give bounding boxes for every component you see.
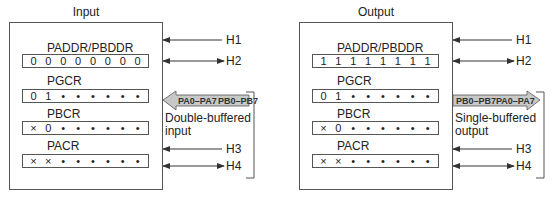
bit: • — [347, 155, 359, 167]
register-label: PGCR — [47, 74, 82, 88]
bit: 0 — [27, 55, 39, 67]
bit: 0 — [42, 55, 54, 67]
handshake-label-h2: H2 — [516, 54, 531, 68]
bit: • — [362, 122, 374, 134]
data-arrow-label-left: PA0–PA7 — [178, 96, 217, 106]
register-pbcr: ×0•••••• — [22, 121, 149, 135]
bit: 0 — [42, 122, 54, 134]
register-label: PBCR — [47, 107, 80, 121]
bit: • — [57, 90, 69, 102]
bit: • — [377, 90, 389, 102]
bit: 0 — [72, 55, 84, 67]
bit: 0 — [102, 55, 114, 67]
bit: × — [317, 122, 329, 134]
data-arrow-label-left: PB0–PB7 — [456, 96, 496, 106]
bit: 1 — [422, 55, 434, 67]
register-label: PADDR/PBDDR — [337, 41, 423, 55]
buffer-note-line2: input — [165, 125, 191, 138]
register-pacr: ××•••••• — [22, 154, 149, 168]
bit: × — [332, 155, 344, 167]
buffer-note-line2: output — [455, 125, 488, 138]
bit: 0 — [332, 122, 344, 134]
bit: • — [347, 122, 359, 134]
handshake-label-h2: H2 — [226, 54, 241, 68]
bit: • — [407, 155, 419, 167]
bit: 1 — [332, 90, 344, 102]
bit: • — [117, 122, 129, 134]
bit: • — [72, 122, 84, 134]
bit: 0 — [87, 55, 99, 67]
register-label: PACR — [47, 139, 79, 153]
handshake-label-h1: H1 — [516, 33, 531, 47]
bit: • — [57, 155, 69, 167]
bit: • — [132, 155, 144, 167]
handshake-label-h3: H3 — [516, 142, 531, 156]
bit: • — [102, 90, 114, 102]
handshake-label-h3: H3 — [226, 142, 241, 156]
handshake-label-h4: H4 — [226, 159, 241, 173]
bit: × — [27, 155, 39, 167]
bit: • — [362, 90, 374, 102]
bit: • — [72, 155, 84, 167]
bit: • — [132, 90, 144, 102]
bit: • — [377, 155, 389, 167]
bit: • — [377, 122, 389, 134]
bit: • — [407, 122, 419, 134]
bit: • — [347, 90, 359, 102]
bit: • — [362, 155, 374, 167]
bit: × — [317, 155, 329, 167]
bit: 0 — [117, 55, 129, 67]
register-label: PACR — [337, 139, 369, 153]
data-arrow-label-right: PA0–PA7 — [496, 96, 535, 106]
register-paddr-pbddr: 00000000 — [22, 54, 149, 68]
register-label: PADDR/PBDDR — [47, 41, 133, 55]
data-arrow-label-right: PB0–PB7 — [218, 96, 258, 106]
bit: 1 — [407, 55, 419, 67]
panel-title-output: Output — [336, 5, 416, 19]
panel-title-input: Input — [46, 5, 126, 19]
bit: × — [27, 122, 39, 134]
bit: • — [392, 90, 404, 102]
bit: • — [407, 90, 419, 102]
bit: • — [392, 155, 404, 167]
register-pgcr: 01•••••• — [312, 89, 439, 103]
bit: 1 — [42, 90, 54, 102]
bit: • — [57, 122, 69, 134]
bit: • — [422, 90, 434, 102]
bit: 1 — [332, 55, 344, 67]
bit: • — [87, 90, 99, 102]
bit: • — [102, 122, 114, 134]
bit: 1 — [317, 55, 329, 67]
handshake-label-h4: H4 — [516, 159, 531, 173]
register-label: PGCR — [337, 74, 372, 88]
bit: 0 — [57, 55, 69, 67]
bit: • — [132, 122, 144, 134]
bit: • — [117, 155, 129, 167]
register-pgcr: 01•••••• — [22, 89, 149, 103]
register-paddr-pbddr: 11111111 — [312, 54, 439, 68]
bit: • — [392, 122, 404, 134]
bit: 0 — [317, 90, 329, 102]
register-label: PBCR — [337, 107, 370, 121]
bit: 1 — [362, 55, 374, 67]
bit: • — [102, 155, 114, 167]
bit: 1 — [392, 55, 404, 67]
bit: 0 — [27, 90, 39, 102]
bit: • — [72, 90, 84, 102]
bit: × — [42, 155, 54, 167]
bit: • — [422, 155, 434, 167]
bit: • — [422, 122, 434, 134]
bit: 1 — [377, 55, 389, 67]
register-pacr: ××•••••• — [312, 154, 439, 168]
bit: 0 — [132, 55, 144, 67]
bit: 1 — [347, 55, 359, 67]
bit: • — [117, 90, 129, 102]
bit: • — [87, 155, 99, 167]
handshake-label-h1: H1 — [226, 33, 241, 47]
bit: • — [87, 122, 99, 134]
register-pbcr: ×0•••••• — [312, 121, 439, 135]
